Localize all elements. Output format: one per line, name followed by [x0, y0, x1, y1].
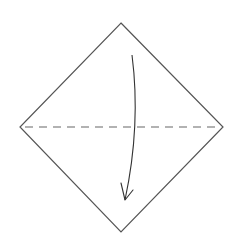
diagram-canvas	[0, 0, 240, 251]
paper-diamond	[20, 23, 223, 232]
origami-fold-diagram: Origami valley fold: fold top corner dow…	[0, 0, 240, 251]
